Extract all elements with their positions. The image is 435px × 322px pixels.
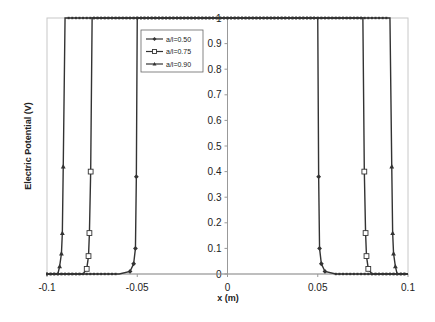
diamond-marker-icon [323,269,328,274]
triangle-marker-icon [60,231,65,235]
x-axis-title: x (m) [217,293,239,303]
diamond-marker-icon [317,246,322,251]
diamond-marker-icon [134,174,139,179]
x-axis: -0.1-0.0500.050.1 [38,274,415,293]
triangle-marker-icon [390,231,395,235]
diamond-marker-icon [316,174,321,179]
legend-label: a/l=0.90 [166,61,191,68]
triangle-marker-icon [389,164,394,168]
legend: a/l=0.50a/l=0.75a/l=0.90 [141,30,203,72]
y-tick-label: 0.9 [208,38,222,49]
y-tick-label: 0.6 [208,115,222,126]
legend-label: a/l=0.50 [166,36,191,43]
square-marker-icon [86,254,91,259]
y-axis: 00.10.20.30.40.50.60.70.80.91 [208,13,228,280]
triangle-marker-icon [61,164,66,168]
square-marker-icon [84,266,89,271]
y-tick-label: 0.7 [208,89,222,100]
square-marker-icon [87,231,92,236]
triangle-marker-icon [393,264,398,268]
y-tick-label: 0.2 [208,217,222,228]
y-tick-label: 0.4 [208,166,222,177]
electric-potential-chart: 00.10.20.30.40.50.60.70.80.91 -0.1-0.050… [0,0,435,322]
y-tick-label: 0.5 [208,141,222,152]
x-tick-label: -0.05 [126,282,149,293]
triangle-marker-icon [391,251,396,255]
y-tick-label: 0.1 [208,243,222,254]
square-marker-icon [88,169,93,174]
square-marker-icon [366,266,371,271]
square-marker-icon [362,169,367,174]
legend-label: a/l=0.75 [166,48,191,55]
triangle-marker-icon [59,251,64,255]
y-axis-title: Electric Potential (V) [23,102,33,190]
y-tick-label: 0.8 [208,64,222,75]
diamond-marker-icon [128,269,133,274]
square-marker-icon [364,254,369,259]
x-tick-label: 0 [225,282,231,293]
y-tick-label: 0.3 [208,192,222,203]
diamond-marker-icon [131,261,136,266]
x-tick-label: -0.1 [38,282,56,293]
x-tick-label: 0.1 [401,282,415,293]
triangle-marker-icon [57,264,62,268]
square-marker-icon [363,231,368,236]
x-tick-label: 0.05 [308,282,328,293]
square-marker-icon [153,50,157,54]
diamond-marker-icon [133,246,138,251]
diamond-marker-icon [319,261,324,266]
